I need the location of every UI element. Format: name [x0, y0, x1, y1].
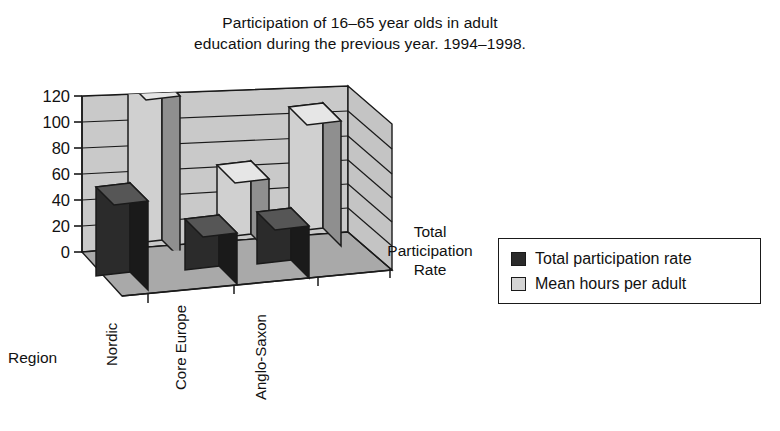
chart-figure: Participation of 16–65 year olds in adul… — [0, 0, 780, 431]
chart-svg: 0 20 40 60 80 100 120 — [0, 0, 780, 431]
y-tick-60: 60 — [52, 165, 70, 183]
z-axis-title-line-2: Participation — [372, 241, 488, 260]
z-axis-title: Total Participation Rate — [372, 222, 488, 279]
legend-label-total-participation-rate: Total participation rate — [535, 250, 692, 268]
chart-legend: Total participation rate Mean hours per … — [498, 238, 761, 304]
y-tick-labels: 0 20 40 60 80 100 120 — [42, 87, 70, 261]
x-category-label-nordic: Nordic — [103, 323, 120, 366]
x-category-label-anglo-saxon: Anglo-Saxon — [252, 314, 269, 400]
legend-item-mean-hours-per-adult[interactable]: Mean hours per adult — [511, 271, 760, 296]
legend-label-mean-hours-per-adult: Mean hours per adult — [535, 275, 686, 293]
y-tick-0: 0 — [61, 243, 70, 261]
y-tick-120: 120 — [42, 87, 70, 105]
y-tick-100: 100 — [42, 113, 70, 131]
x-category-label-core-europe: Core Europe — [172, 305, 189, 390]
z-axis-title-line-3: Rate — [372, 260, 488, 279]
y-axis — [74, 96, 82, 252]
chart-plot-area: 0 20 40 60 80 100 120 — [0, 0, 780, 431]
legend-swatch-mean-hours-per-adult — [511, 277, 526, 291]
y-tick-20: 20 — [52, 217, 70, 235]
x-axis-title: Region — [8, 348, 57, 367]
legend-item-total-participation-rate[interactable]: Total participation rate — [511, 246, 760, 271]
z-axis-title-line-1: Total — [372, 222, 488, 241]
y-tick-80: 80 — [52, 139, 70, 157]
y-tick-40: 40 — [52, 191, 70, 209]
legend-swatch-total-participation-rate — [511, 252, 526, 266]
